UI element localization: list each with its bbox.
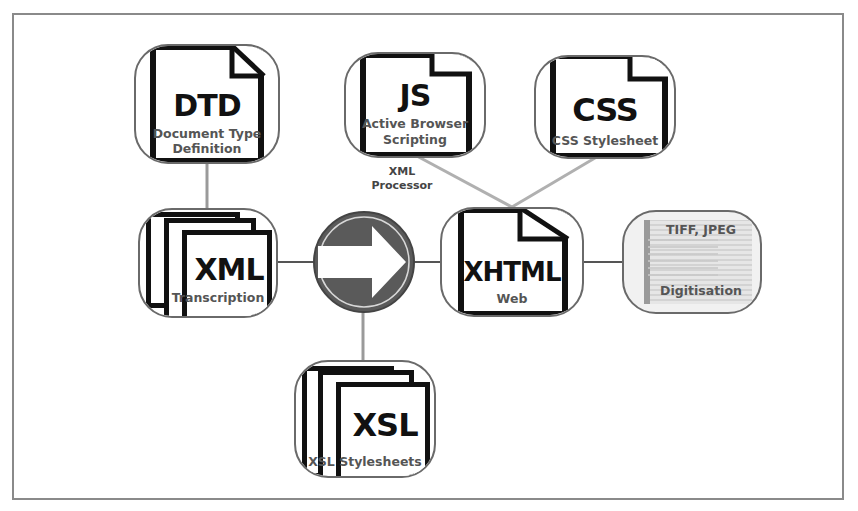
css-label: CSS (536, 91, 674, 129)
node-js: JS Active Browser Scripting (344, 52, 486, 158)
js-caption-1: Active Browser (344, 116, 486, 131)
processor-node (314, 212, 414, 312)
xhtml-caption: Web (440, 291, 584, 306)
node-digitisation: TIFF, JPEG Digitisation (622, 210, 762, 314)
processor-label-line2: Processor (362, 179, 442, 193)
xsl-caption: XSL Stylesheets (296, 454, 434, 469)
js-caption-2: Scripting (344, 132, 486, 147)
xsl-label: XSL (336, 406, 434, 444)
node-css: CSS CSS Stylesheet (534, 55, 676, 159)
dtd-caption-1: Document Type (134, 126, 280, 141)
xhtml-label: XHTML (442, 257, 582, 287)
digitisation-format: TIFF, JPEG (646, 222, 756, 237)
node-xsl: XSL XSL Stylesheets (294, 360, 436, 478)
node-xml: XML Transcription (138, 208, 278, 318)
node-xhtml: XHTML Web (440, 207, 584, 317)
edge-css-xhtml (512, 155, 600, 207)
dtd-label: DTD (136, 88, 278, 123)
scan-texture (648, 236, 718, 276)
css-caption-1: CSS Stylesheet (534, 133, 676, 148)
xml-label: XML (182, 252, 276, 287)
digitisation-caption: Digitisation (646, 283, 756, 298)
xml-caption: Transcription (160, 290, 276, 305)
node-dtd: DTD Document Type Definition (134, 44, 280, 164)
processor-label-line1: XML (362, 165, 442, 179)
dtd-caption-2: Definition (134, 141, 280, 156)
processor-label: XML Processor (362, 165, 442, 193)
js-label: JS (346, 78, 484, 113)
